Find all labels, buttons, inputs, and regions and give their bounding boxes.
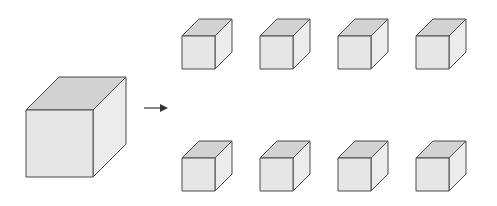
small-cube-2	[260, 19, 310, 69]
small-cube-7	[338, 141, 388, 191]
cube-front-face	[182, 36, 215, 69]
small-cube-8	[416, 141, 466, 191]
large-cube	[26, 77, 126, 177]
cube-front-face	[260, 36, 293, 69]
cube-division-diagram	[0, 0, 497, 206]
small-cube-4	[416, 19, 466, 69]
small-cube-5	[182, 141, 232, 191]
cube-front-face	[416, 36, 449, 69]
diagram-canvas	[0, 0, 497, 206]
cube-front-face	[338, 36, 371, 69]
small-cube-6	[260, 141, 310, 191]
small-cube-1	[182, 19, 232, 69]
large-cube-shape	[26, 77, 126, 177]
cube-front-face	[182, 158, 215, 191]
small-cube-3	[338, 19, 388, 69]
cube-front-face	[26, 110, 93, 177]
small-cubes-grid	[182, 19, 466, 191]
cube-front-face	[338, 158, 371, 191]
cube-front-face	[260, 158, 293, 191]
cube-front-face	[416, 158, 449, 191]
